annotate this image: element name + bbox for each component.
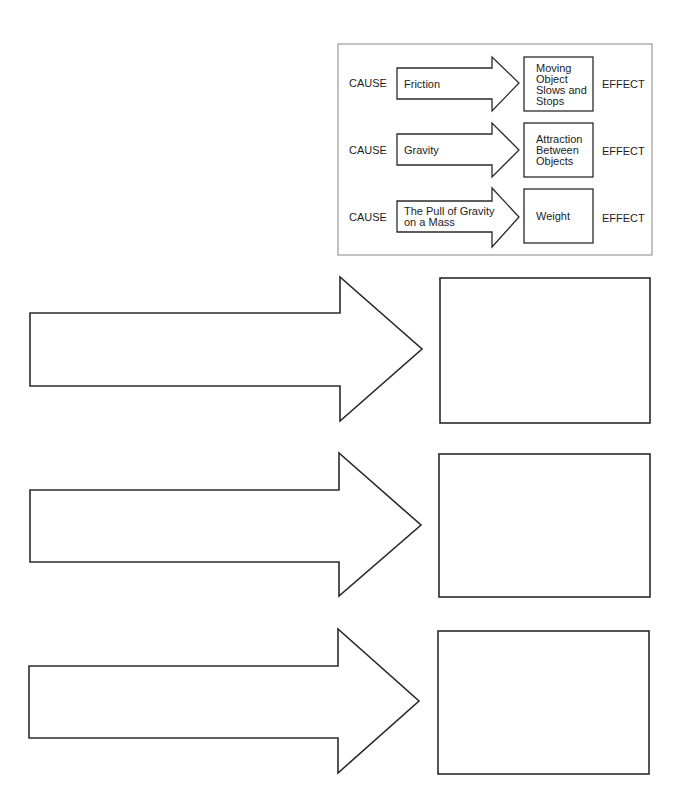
cause-label: CAUSE bbox=[349, 211, 387, 223]
cause-arrow-blank[interactable] bbox=[30, 277, 422, 421]
cause-text: on a Mass bbox=[404, 216, 455, 228]
worksheet-row bbox=[29, 629, 649, 774]
cause-label: CAUSE bbox=[349, 77, 387, 89]
cause-text: Friction bbox=[404, 78, 440, 90]
effect-label: EFFECT bbox=[602, 145, 645, 157]
effect-box-blank[interactable] bbox=[440, 278, 650, 423]
worksheet-row bbox=[30, 453, 650, 597]
cause-arrow-blank[interactable] bbox=[29, 629, 419, 773]
effect-box-blank[interactable] bbox=[438, 631, 649, 774]
effect-text: Objects bbox=[536, 155, 574, 167]
effect-label: EFFECT bbox=[602, 212, 645, 224]
worksheet-area bbox=[29, 277, 650, 774]
effect-text: Stops bbox=[536, 95, 565, 107]
cause-text: Gravity bbox=[404, 144, 439, 156]
cause-arrow-blank[interactable] bbox=[30, 453, 421, 596]
example-panel: CAUSEFrictionMovingObjectSlows andStopsE… bbox=[338, 44, 652, 255]
worksheet-row bbox=[30, 277, 650, 423]
effect-box-blank[interactable] bbox=[439, 454, 650, 597]
effect-label: EFFECT bbox=[602, 78, 645, 90]
cause-effect-worksheet: CAUSEFrictionMovingObjectSlows andStopsE… bbox=[0, 0, 680, 807]
effect-text: Weight bbox=[536, 210, 570, 222]
cause-label: CAUSE bbox=[349, 144, 387, 156]
